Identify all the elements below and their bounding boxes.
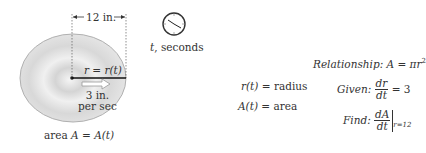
find: Find: dAdtr=12 [343,109,411,132]
given: Given: drdt = 3 [337,78,410,101]
given-value: = 3 [392,83,411,95]
definition-symbol: A(t) = [238,100,270,112]
area-prefix: area [44,129,71,141]
speed-line-2: per sec [78,101,117,112]
given-label: Given: [337,83,371,95]
radius-label: r = r(t) [84,64,122,76]
relationship-exponent: 2 [422,57,426,65]
clock-icon [161,11,187,37]
definition-area: A(t) = area [238,100,297,112]
clock-caption: t, seconds [150,41,204,53]
speed-label: 3 in. per sec [78,90,117,112]
definition-meaning: area [273,100,297,112]
area-math: A = A(t) [71,129,114,141]
relationship-label: Relationship: [313,58,383,70]
time-unit: , seconds [154,41,203,53]
definition-radius: r(t) = radius [241,80,307,92]
given-derivative: drdt [375,78,389,101]
find-derivative: dAdt [374,109,390,132]
area-label: area A = A(t) [44,129,114,141]
find-condition: r=12 [393,121,411,129]
definition-meaning: radius [274,80,308,92]
find-label: Find: [343,114,371,126]
relationship-formula: A = πr [387,58,422,70]
relationship: Relationship: A = πr2 [313,57,426,70]
dimension-label: 12 in. [86,11,116,23]
definition-symbol: r(t) = [241,80,271,92]
